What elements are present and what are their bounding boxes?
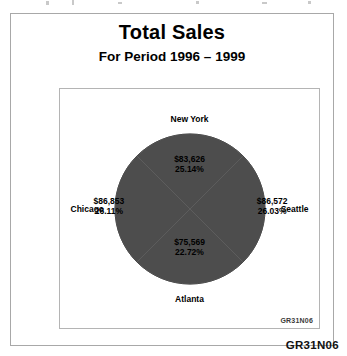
- scan-artifacts: [0, 0, 347, 12]
- pie-category-label-atlanta: Atlanta: [175, 294, 204, 304]
- figure-titles: Total Sales For Period 1996 – 1999: [11, 21, 333, 66]
- pie-value-label-chicago: $86,853 26.11%: [94, 196, 125, 217]
- inner-watermark: GR31N06: [280, 317, 313, 324]
- plot-area-frame: New York Seattle Atlanta Chicago $83,626…: [59, 88, 320, 329]
- pie-value-label-seattle: $86,572 26.03%: [257, 196, 288, 217]
- pie-value-label-atlanta: $75,569 22.72%: [174, 237, 205, 258]
- pie-percent-atlanta: 22.72%: [174, 247, 205, 258]
- pie-amount-chicago: $86,853: [94, 196, 125, 207]
- pie-percent-new-york: 25.14%: [174, 164, 205, 175]
- pie-amount-atlanta: $75,569: [174, 237, 205, 248]
- chart-subtitle: For Period 1996 – 1999: [11, 47, 333, 66]
- pie-percent-seattle: 26.03%: [257, 206, 288, 217]
- outer-watermark: GR31N06: [286, 339, 339, 351]
- pie-chart: New York Seattle Atlanta Chicago $83,626…: [75, 114, 305, 304]
- figure-outer-frame: Total Sales For Period 1996 – 1999 New Y…: [10, 13, 334, 346]
- pie-category-label-new-york: New York: [171, 114, 209, 124]
- page-title: Total Sales: [11, 21, 333, 44]
- pie-value-label-new-york: $83,626 25.14%: [174, 154, 205, 175]
- pie-amount-new-york: $83,626: [174, 154, 205, 165]
- pie-amount-seattle: $86,572: [257, 196, 288, 207]
- pie-percent-chicago: 26.11%: [94, 206, 125, 217]
